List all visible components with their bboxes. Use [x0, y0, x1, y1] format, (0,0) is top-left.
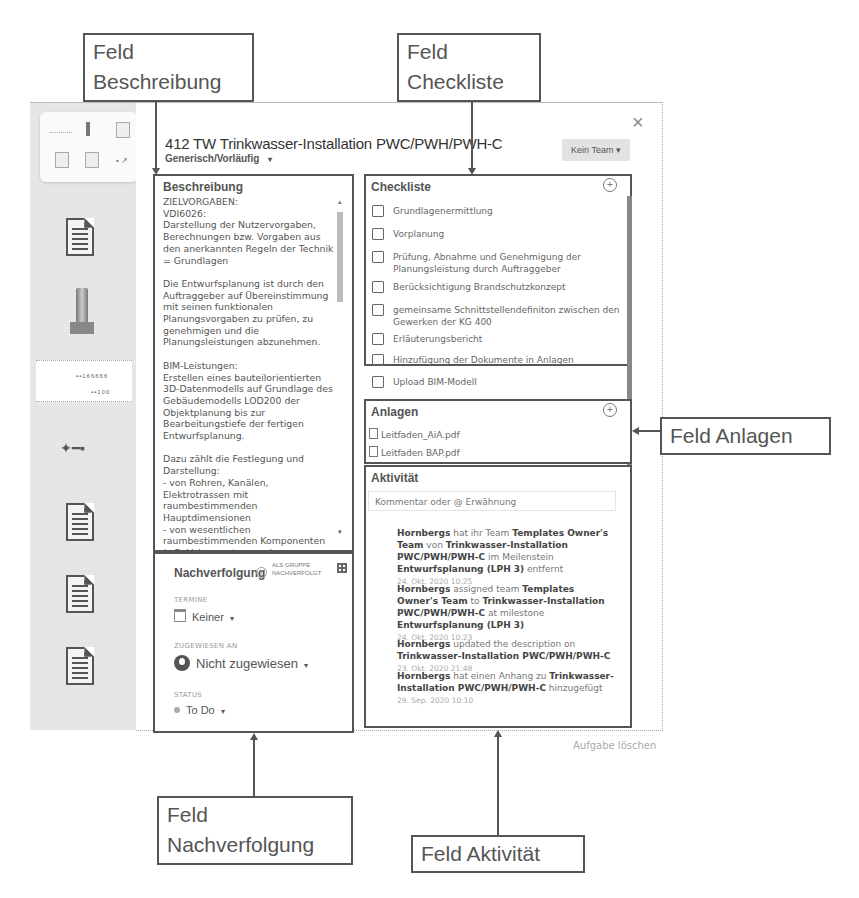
valve-icon[interactable] [76, 288, 88, 326]
arrow-icon [250, 733, 258, 740]
callout-line: Beschreibung [93, 67, 244, 97]
connector-line [497, 737, 499, 835]
deadline-value: Keiner [192, 611, 224, 623]
add-checklist-item-icon[interactable]: + [603, 178, 617, 192]
file-icon [369, 428, 378, 439]
document-icon[interactable] [66, 575, 94, 613]
deadline-dropdown[interactable]: Keiner▾ [174, 609, 234, 623]
callout-line: Checkliste [407, 67, 531, 97]
arrow-icon [152, 168, 160, 175]
activity-entry: Hornbergs assigned team Templates Owner'… [397, 583, 617, 644]
callout-attachments: Feld Anlagen [660, 417, 831, 455]
activity-text: Hornbergs hat einen Anhang zu Trinkwasse… [397, 670, 617, 694]
group-label-line2: NACHVERFOLGT [272, 569, 321, 577]
activity-timestamp: 29. Sep. 2020 10:10 [397, 695, 617, 707]
checkbox[interactable] [372, 333, 384, 345]
chevron-down-icon: ▾ [230, 614, 234, 623]
checkbox[interactable] [372, 376, 384, 388]
checklist-item-label: gemeinsame Schnittstellendefiniton zwisc… [393, 304, 623, 328]
activity-text: Hornbergs hat ihr Team Templates Owner's… [397, 527, 617, 575]
status-dot-icon [174, 707, 180, 713]
chevron-down-icon: ▾ [221, 707, 225, 716]
description-text[interactable]: ZIELVORGABEN: VDI6026: Darstellung der N… [163, 196, 338, 571]
callout-line: Feld Aktivität [421, 839, 575, 869]
document-icon[interactable] [66, 503, 94, 541]
task-title: 412 TW Trinkwasser-Installation PWC/PWH/… [165, 135, 502, 152]
group-tracked-label: ALS GRUPPE NACHVERFOLGT [272, 561, 321, 577]
attachment-link[interactable]: Leitfaden BAP.pdf [369, 446, 460, 458]
checkbox[interactable] [372, 304, 384, 316]
assignee-dropdown[interactable]: Nicht zugewiesen▾ [174, 655, 308, 671]
activity-title: Aktivität [371, 471, 418, 485]
left-rail [30, 102, 136, 730]
status-value: To Do [186, 704, 215, 716]
arrow-icon [468, 168, 476, 175]
callout-activity: Feld Aktivität [411, 835, 585, 873]
attachment-name: Leitfaden_AiA.pdf [381, 430, 460, 440]
deadline-label: TERMINE [174, 596, 207, 604]
tracking-title: Nachverfolgung [174, 566, 265, 580]
attachment-link[interactable]: Leitfaden_AiA.pdf [369, 428, 460, 440]
divider [30, 102, 662, 103]
connector-line [471, 102, 473, 170]
info-icon[interactable]: i [256, 567, 267, 578]
checklist-item-label: Grundlagenermittlung [393, 205, 623, 217]
delete-task-link[interactable]: Aufgabe löschen [573, 740, 656, 751]
callout-checklist: Feld Checkliste [397, 33, 541, 102]
document-thumb[interactable] [85, 152, 99, 168]
callout-line: Feld Anlagen [670, 421, 821, 451]
document-icon[interactable] [66, 647, 94, 685]
callout-description: Feld Beschreibung [83, 33, 254, 102]
checklist-item-label: Erläuterungsbericht [393, 333, 623, 345]
scroll-up-icon[interactable]: ▴ [338, 198, 342, 206]
close-icon[interactable]: × [632, 112, 644, 132]
fitting-icon[interactable]: ✦━▪ [60, 440, 85, 456]
checkbox[interactable] [372, 281, 384, 293]
calendar-icon [174, 609, 186, 622]
checkbox[interactable] [372, 205, 384, 217]
connector-line [638, 430, 660, 432]
callout-line: Nachverfolgung [167, 830, 343, 860]
group-label-line1: ALS GRUPPE [272, 561, 321, 569]
connector-line [155, 102, 157, 170]
team-dropdown-button[interactable]: Kein Team ▾ [562, 139, 630, 161]
attachment-name: Leitfaden BAP.pdf [381, 448, 460, 458]
callout-line: Feld [167, 800, 343, 830]
document-icon[interactable] [66, 218, 94, 256]
valve-thumb[interactable] [86, 122, 90, 136]
checklist-item-label: Prüfung, Abnahme und Genehmigung der Pla… [393, 251, 623, 275]
thumbnail-panel[interactable]: • ↗ [40, 112, 138, 182]
activity-entry: Hornbergs hat einen Anhang zu Trinkwasse… [397, 670, 617, 707]
document-thumb[interactable] [116, 122, 130, 138]
checklist-title: Checkliste [371, 180, 431, 194]
phase-dropdown[interactable]: Generisch/Vorläufig ▾ [165, 153, 272, 164]
drawing-thumb[interactable] [50, 124, 72, 133]
checkbox[interactable] [372, 354, 384, 366]
checklist-item-label: Hinzufügung der Dokumente in Anlagen [393, 354, 623, 366]
scroll-down-icon[interactable]: ▾ [338, 528, 342, 536]
assigned-label: ZUGEWIESEN AN [174, 642, 237, 650]
assignee-value: Nicht zugewiesen [196, 656, 298, 671]
description-scrollbar[interactable] [337, 212, 343, 302]
connector-line [253, 740, 255, 796]
activity-text: Hornbergs updated the description on Tri… [397, 638, 617, 662]
drawing-icon[interactable]: ▪▪166666 ▪▪100 [36, 360, 132, 402]
description-title: Beschreibung [163, 180, 243, 194]
valve-base-icon [70, 322, 94, 334]
status-dropdown[interactable]: To Do▾ [174, 704, 225, 716]
file-icon [369, 446, 378, 457]
callout-line: Feld [93, 37, 244, 67]
checklist-item-label: Vorplanung [393, 228, 623, 240]
activity-text: Hornbergs assigned team Templates Owner'… [397, 583, 617, 631]
add-attachment-icon[interactable]: + [603, 403, 617, 417]
fitting-thumb[interactable]: • ↗ [116, 156, 128, 165]
checkbox[interactable] [372, 251, 384, 263]
attachments-title: Anlagen [371, 405, 418, 419]
checkbox[interactable] [372, 228, 384, 240]
status-label: STATUS [174, 691, 202, 699]
group-toggle-icon[interactable] [337, 563, 347, 573]
comment-input[interactable]: Kommentar oder @ Erwähnung [368, 491, 616, 511]
document-thumb[interactable] [55, 152, 69, 168]
callout-line: Feld [407, 37, 531, 67]
arrow-icon [632, 427, 639, 435]
